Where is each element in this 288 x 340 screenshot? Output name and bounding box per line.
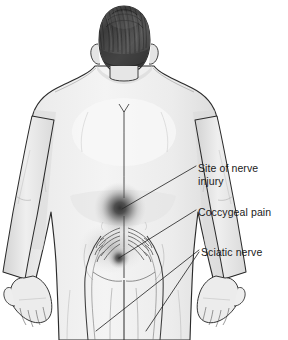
- hand-right-shape: [197, 276, 239, 323]
- label-sciatic-nerve: Sciatic nerve: [201, 246, 288, 259]
- hand-left: [4, 276, 52, 327]
- neck: [110, 66, 138, 81]
- label-site-of-nerve-injury: Site of nerve injury: [198, 162, 286, 187]
- anatomical-illustration: Site of nerve injury Coccygeal pain Scia…: [0, 0, 288, 340]
- hand-left-shape: [10, 276, 52, 323]
- ear-left: [91, 44, 100, 64]
- ear-right: [149, 44, 158, 64]
- label-coccygeal-pain: Coccygeal pain: [198, 206, 286, 219]
- hand-right: [197, 276, 245, 327]
